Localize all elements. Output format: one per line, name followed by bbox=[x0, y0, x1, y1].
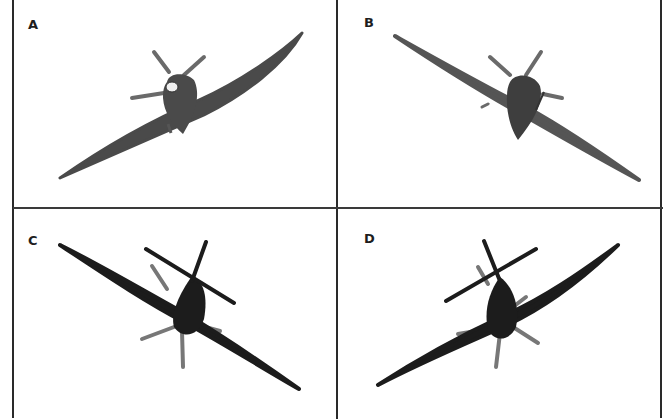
panel-b: B bbox=[338, 0, 662, 207]
panel-c: C bbox=[14, 209, 336, 419]
airplane-rear-view-icon bbox=[338, 209, 662, 419]
panel-d: D bbox=[338, 209, 662, 419]
airplane-front-view-icon bbox=[14, 0, 336, 207]
airplane-front-view-icon bbox=[338, 0, 662, 207]
panel-a: A bbox=[14, 0, 336, 207]
airplane-rear-view-icon bbox=[14, 209, 336, 419]
